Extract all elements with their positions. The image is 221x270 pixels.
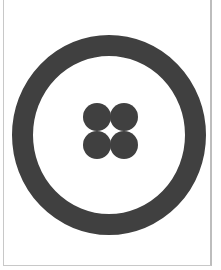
center-dot: [110, 103, 138, 131]
ring-and-dots-figure: [0, 0, 221, 270]
outer-ring-shape: [23, 46, 196, 225]
center-dot: [83, 131, 111, 159]
center-dot-cluster: [83, 103, 138, 159]
center-dot: [110, 131, 138, 159]
center-dot: [83, 103, 111, 131]
